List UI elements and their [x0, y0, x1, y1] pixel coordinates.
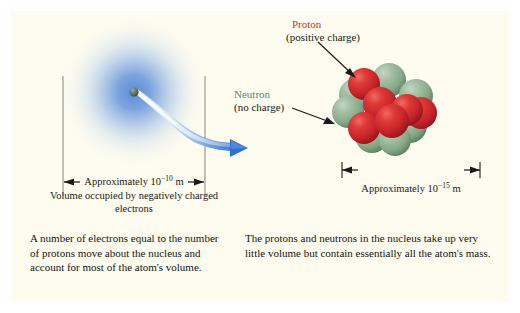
neutron-label: Neutron (no charge)	[234, 88, 284, 114]
neutron-name: Neutron	[234, 88, 284, 101]
nucleus-dimension-label: Approximately 10−15 m	[337, 183, 485, 195]
proton-label: Proton (positive charge)	[286, 18, 360, 44]
dimension-suffix: m	[173, 176, 184, 187]
atom-structure-figure: Proton (positive charge) Neutron (no cha…	[0, 0, 520, 313]
dimension-prefix: Approximately 10	[84, 176, 161, 187]
electron-cloud-dimension-label: Approximately 10−10 m	[63, 176, 205, 188]
neutron-charge-note: (no charge)	[234, 101, 284, 114]
dimension-exponent: −10	[161, 174, 173, 183]
right-body-caption: The protons and neutrons in the nucleus …	[245, 231, 493, 260]
dimension-prefix: Approximately 10	[361, 183, 438, 194]
dimension-suffix: m	[450, 183, 461, 194]
dimension-exponent: −15	[438, 181, 450, 190]
left-body-caption: A number of electrons equal to the numbe…	[30, 231, 226, 275]
proton-name: Proton	[292, 18, 360, 31]
proton-charge-note: (positive charge)	[286, 31, 360, 44]
electron-cloud-caption: Volume occupied by negatively charged el…	[40, 190, 228, 216]
